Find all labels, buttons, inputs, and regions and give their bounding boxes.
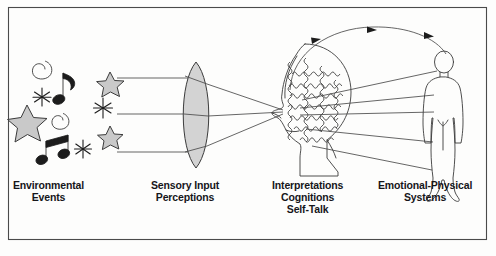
label-line: Cognitions	[272, 191, 343, 203]
arrow-head-icon	[424, 32, 434, 39]
diagram-canvas: Environmental Events Sensory Input Perce…	[0, 0, 496, 256]
incoming-light-rays	[117, 78, 193, 152]
label-emotional-physical-systems: Emotional-Physical Systems	[378, 179, 472, 203]
outgoing-response-rays	[300, 71, 437, 170]
sparkle-icon	[75, 140, 92, 158]
label-line: Events	[13, 191, 84, 203]
star-icon	[97, 72, 124, 97]
label-environmental-events: Environmental Events	[13, 179, 84, 203]
label-line: Interpretations	[272, 179, 343, 191]
diagram-frame	[9, 8, 487, 240]
diagram-illustration	[0, 0, 496, 256]
label-line: Sensory Input	[151, 179, 219, 191]
arrow-head-icon	[311, 38, 321, 45]
music-note-icon	[51, 73, 74, 106]
feedback-loop-arrow	[290, 27, 446, 91]
label-interpretations-cognitions-self-talk: Interpretations Cognitions Self-Talk	[272, 179, 343, 216]
spiral-icon	[32, 61, 51, 79]
label-line: Environmental	[13, 179, 84, 191]
label-line: Systems	[378, 191, 472, 203]
sparkle-icon	[94, 98, 113, 118]
environmental-stimuli-symbols	[8, 61, 125, 166]
label-line: Perceptions	[151, 191, 219, 203]
label-line: Emotional-Physical	[378, 179, 472, 191]
label-sensory-input-perceptions: Sensory Input Perceptions	[151, 179, 219, 203]
spiral-icon	[52, 114, 69, 130]
head-profile-icon	[272, 44, 351, 176]
arrow-head-icon	[367, 27, 377, 34]
label-line: Self-Talk	[272, 203, 343, 215]
sparkle-icon	[33, 88, 51, 106]
star-icon	[98, 126, 124, 150]
star-icon	[8, 105, 48, 142]
